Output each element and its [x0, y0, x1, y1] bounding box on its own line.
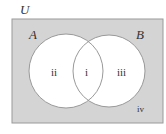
- region-iv-label: iv: [137, 104, 145, 114]
- universe-label: U: [20, 2, 31, 17]
- set-b-label: B: [136, 27, 144, 42]
- region-iii-label: iii: [117, 66, 126, 78]
- venn-diagram: U A B ii i iii iv: [0, 0, 166, 134]
- region-ii-label: ii: [51, 66, 57, 78]
- region-i-label: i: [85, 66, 88, 78]
- set-a-label: A: [28, 27, 37, 42]
